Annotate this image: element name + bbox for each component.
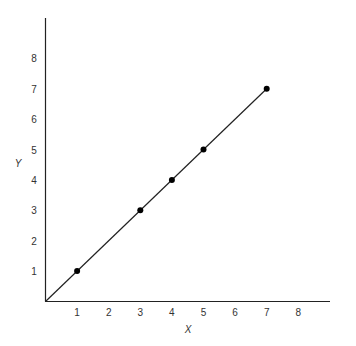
y-tick-label: 2 (31, 236, 37, 247)
data-point (264, 86, 270, 92)
line-chart: 12345678 12345678 X Y (0, 0, 356, 346)
x-tick-label: 4 (169, 307, 175, 318)
data-point (169, 177, 175, 183)
x-tick-label: 3 (138, 307, 144, 318)
x-tick-label: 5 (201, 307, 207, 318)
x-axis-label: X (184, 324, 192, 335)
x-tick-labels: 12345678 (74, 307, 301, 318)
y-tick-label: 6 (31, 114, 37, 125)
data-series (46, 86, 270, 302)
x-tick-label: 6 (232, 307, 238, 318)
x-tick-label: 2 (106, 307, 112, 318)
y-tick-label: 1 (31, 266, 37, 277)
y-tick-labels: 12345678 (31, 53, 37, 277)
y-tick-label: 7 (31, 84, 37, 95)
data-point (137, 207, 143, 213)
x-tick-label: 8 (296, 307, 302, 318)
axes (45, 18, 330, 302)
x-tick-label: 1 (74, 307, 80, 318)
y-tick-label: 5 (31, 145, 37, 156)
y-tick-label: 3 (31, 205, 37, 216)
y-axis-label: Y (15, 158, 23, 169)
data-point (201, 147, 207, 153)
data-point (74, 268, 80, 274)
y-tick-label: 4 (31, 175, 37, 186)
y-tick-label: 8 (31, 53, 37, 64)
x-tick-label: 7 (264, 307, 270, 318)
